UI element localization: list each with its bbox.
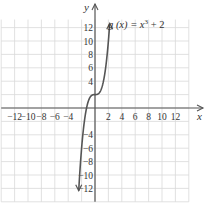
x-tick-label: −8	[36, 112, 46, 122]
axes	[1, 4, 203, 202]
function-label: g (x) = x3 + 2	[108, 18, 164, 31]
y-axis-label: y	[83, 1, 89, 13]
function-graph: −12−10−8−6−4246810121210864−4−6−8−10−12 …	[0, 0, 207, 206]
x-tick-label: −4	[63, 112, 73, 122]
y-tick-label: 12	[84, 23, 94, 33]
y-tick-label: −8	[83, 157, 93, 167]
y-tick-label: 6	[88, 63, 93, 73]
y-tick-label: 10	[84, 37, 94, 47]
x-tick-label: 10	[157, 112, 167, 122]
x-tick-label: 8	[146, 112, 151, 122]
x-tick-label: −6	[50, 112, 60, 122]
y-tick-label: −12	[78, 184, 93, 194]
y-tick-label: 8	[88, 50, 93, 60]
x-tick-label: 6	[133, 112, 138, 122]
x-tick-label: −10	[21, 112, 36, 122]
y-tick-label: −4	[83, 130, 93, 140]
x-axis-label: x	[196, 110, 202, 122]
y-tick-label: 4	[88, 77, 93, 87]
x-tick-label: 4	[119, 112, 124, 122]
y-tick-label: −6	[83, 144, 93, 154]
x-tick-label: 12	[171, 112, 181, 122]
x-tick-label: 2	[106, 112, 111, 122]
